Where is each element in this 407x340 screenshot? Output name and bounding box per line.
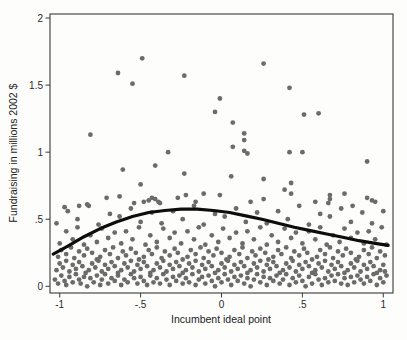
data-point [130,237,135,242]
data-point [276,248,281,253]
data-point [229,174,234,179]
data-point [54,268,59,273]
data-point [196,269,201,274]
data-point [85,284,90,289]
data-point [91,280,96,285]
data-point [185,229,190,234]
data-point [255,210,260,215]
data-point [366,252,371,257]
data-point [125,280,130,285]
x-tick-label: -1 [55,299,64,310]
data-point [357,254,362,259]
data-point [365,267,370,272]
data-point [167,253,172,258]
x-tick-label: 1 [381,299,387,310]
data-point [307,264,312,269]
data-point [277,281,282,286]
data-point [226,277,231,282]
data-point [384,273,389,278]
data-point [82,242,87,247]
data-point [85,202,90,207]
data-point [268,267,273,272]
data-point [182,171,187,176]
data-point [243,220,248,225]
data-point [138,182,143,187]
fundraising-scatter-figure: -1-.50.510.511.52 Fundraising in million… [0,0,407,340]
data-point [366,229,371,234]
data-point [242,138,247,143]
data-point [263,250,268,255]
data-point [112,264,117,269]
data-point [98,283,103,288]
data-point [124,229,129,234]
data-point [154,245,159,250]
x-tick-label: .5 [298,299,307,310]
data-point [193,258,198,263]
data-point [67,275,72,280]
data-point [313,268,318,273]
data-point [53,277,58,282]
data-point [209,264,214,269]
data-point [300,267,305,272]
data-point [300,241,305,246]
data-point [245,229,250,234]
data-point [297,203,302,208]
data-point [174,260,179,265]
data-point [119,241,124,246]
data-point [158,201,163,206]
data-point [77,260,82,265]
data-point [339,206,344,211]
data-point [315,254,320,259]
data-point [171,267,176,272]
data-point [213,110,218,115]
data-point [339,264,344,269]
data-point [281,268,286,273]
data-point [188,248,193,253]
data-point [135,281,140,286]
data-point [103,262,108,267]
data-point [318,225,323,230]
data-point [258,225,263,230]
data-point [143,242,148,247]
data-point [287,150,292,155]
data-point [216,276,221,281]
data-point [182,73,187,78]
data-point [237,252,242,257]
x-tick-label: 0 [219,299,225,310]
data-point [230,120,235,125]
data-point [289,236,294,241]
data-point [148,233,153,238]
data-point [193,252,198,257]
data-point [294,280,299,285]
y-tick-label: .5 [35,214,44,225]
data-point [316,111,321,116]
data-point [116,71,121,76]
data-point [122,261,127,266]
y-tick-label: 0 [37,281,43,292]
data-point [146,248,151,253]
data-point [339,281,344,286]
data-point [203,242,208,247]
data-point [245,276,250,281]
data-point [303,260,308,265]
data-point [318,248,323,253]
data-point [302,246,307,251]
data-point [331,256,336,261]
data-point [206,273,211,278]
data-point [287,85,292,90]
data-point [319,265,324,270]
data-point [201,256,206,261]
data-point [74,272,79,277]
data-point [119,283,124,288]
data-point [242,264,247,269]
data-point [328,197,333,202]
plot-canvas: -1-.50.510.511.52 [0,0,407,340]
data-point [326,269,331,274]
data-point [373,199,378,204]
data-point [180,217,185,222]
data-point [302,112,307,117]
data-point [349,250,354,255]
data-point [167,283,172,288]
data-point [132,201,137,206]
data-point [253,253,258,258]
